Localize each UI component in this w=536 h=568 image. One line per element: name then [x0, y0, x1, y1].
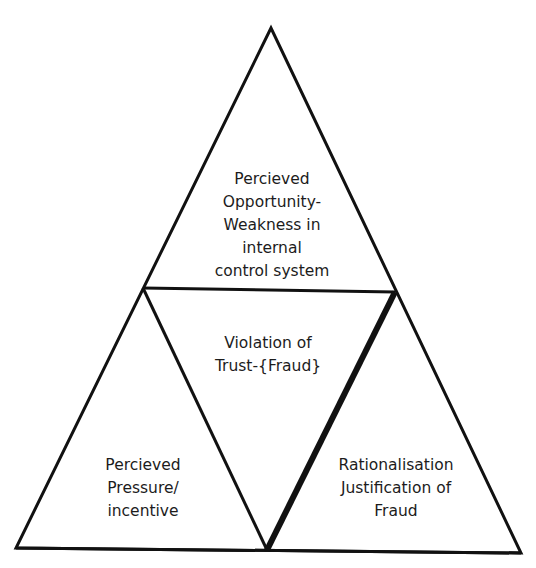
center-label-line-2: Trust-{Fraud} — [215, 355, 321, 378]
bottom-left-label-line-3: incentive — [105, 500, 180, 523]
triangle-shapes — [0, 0, 536, 568]
bottom-left-label-line-2: Pressure/ — [105, 477, 180, 500]
bottom-left-label-line-1: Percieved — [105, 454, 180, 477]
fraud-triangle-diagram: Percieved Opportunity- Weakness in inter… — [0, 0, 536, 568]
top-triangle-base — [143, 288, 395, 292]
bottom-right-triangle-label: Rationalisation Justification of Fraud — [339, 454, 454, 523]
top-label-line-5: control system — [215, 260, 330, 283]
bottom-right-label-line-1: Rationalisation — [339, 454, 454, 477]
bottom-left-triangle-label: Percieved Pressure/ incentive — [105, 454, 180, 523]
top-label-line-2: Opportunity- — [215, 191, 330, 214]
top-triangle-label: Percieved Opportunity- Weakness in inter… — [215, 168, 330, 283]
bottom-right-label-line-3: Fraud — [339, 500, 454, 523]
top-label-line-1: Percieved — [215, 168, 330, 191]
center-triangle-label: Violation of Trust-{Fraud} — [215, 332, 321, 378]
top-label-line-4: internal — [215, 237, 330, 260]
center-label-line-1: Violation of — [215, 332, 321, 355]
bottom-right-label-line-2: Justification of — [339, 477, 454, 500]
top-label-line-3: Weakness in — [215, 214, 330, 237]
